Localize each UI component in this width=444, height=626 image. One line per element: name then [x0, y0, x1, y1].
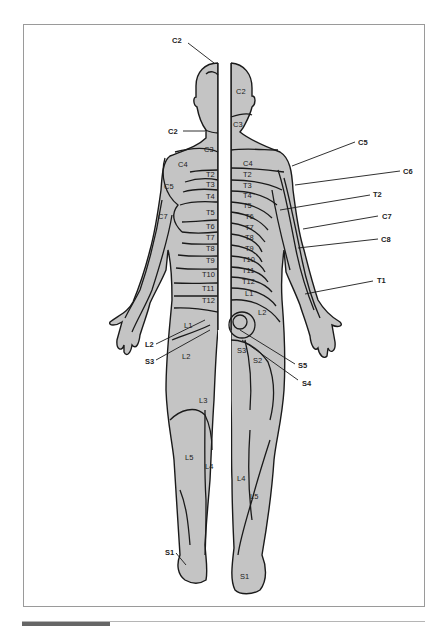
region-label: T9 [206, 256, 215, 265]
label-c5: C5 [358, 138, 368, 147]
region-label: T11 [242, 266, 254, 275]
label-t2: T2 [373, 190, 382, 199]
region-label: T5 [243, 201, 252, 210]
region-label: C2 [236, 87, 246, 96]
region-label: C4 [178, 160, 188, 169]
region-label: L5 [250, 492, 258, 501]
region-label: T9 [245, 244, 254, 253]
region-label: C3 [233, 120, 243, 129]
region-label: L4 [237, 474, 245, 483]
region-label: C4 [243, 159, 253, 168]
region-label: L4 [205, 462, 213, 471]
midline-gap [218, 60, 231, 560]
label-c6: C6 [403, 167, 413, 176]
region-label: C5 [164, 182, 174, 191]
region-label: T6 [245, 212, 254, 221]
region-label: T5 [206, 208, 215, 217]
region-label: T12 [242, 277, 255, 286]
label-s3: S3 [145, 357, 154, 366]
region-label: L1 [245, 289, 253, 298]
region-label: T4 [206, 192, 215, 201]
label-s4: S4 [302, 379, 312, 388]
region-label: L1 [184, 321, 192, 330]
bottom-rule [22, 621, 425, 626]
region-label: T8 [245, 233, 254, 242]
label-c7: C7 [382, 212, 392, 221]
region-label: T10 [202, 270, 215, 279]
region-label: T6 [206, 222, 215, 231]
label-c8: C8 [381, 235, 391, 244]
region-label: T8 [206, 244, 215, 253]
region-label: T7 [245, 223, 254, 232]
label-t1: T1 [377, 276, 386, 285]
region-label: T7 [206, 233, 215, 242]
region-label: T4 [243, 191, 252, 200]
region-label: C3 [204, 145, 214, 154]
region-label: L5 [185, 453, 193, 462]
region-label: T11 [202, 284, 214, 293]
label-l2: L2 [145, 340, 154, 349]
bottom-rule-accent [22, 622, 110, 626]
region-label: S3 [237, 346, 246, 355]
region-label: C7 [158, 212, 168, 221]
region-label: L3 [199, 396, 207, 405]
label-c2-neck: C2 [168, 127, 178, 136]
label-c2-top: C2 [172, 36, 182, 45]
region-label: T3 [206, 180, 215, 189]
region-label: T3 [243, 181, 252, 190]
region-label: T2 [243, 170, 252, 179]
label-s5: S5 [298, 361, 307, 370]
region-label: T2 [206, 170, 215, 179]
label-s1-foot: S1 [165, 548, 174, 557]
region-label: S2 [253, 356, 262, 365]
region-label: T12 [202, 296, 215, 305]
region-label: L2 [182, 352, 190, 361]
region-label: L2 [258, 308, 266, 317]
region-label: T10 [242, 255, 255, 264]
region-label: S1 [240, 572, 249, 581]
left-half-body [110, 63, 218, 583]
